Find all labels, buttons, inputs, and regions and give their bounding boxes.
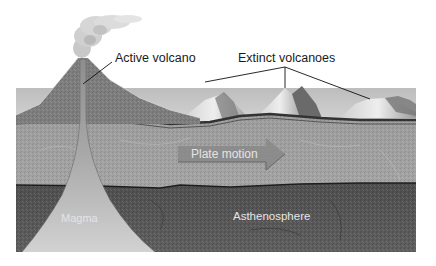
volcano-diagram: [0, 0, 436, 266]
extinct-leader-1: [205, 67, 285, 82]
label-asthenosphere: Asthenosphere: [233, 210, 310, 222]
label-extinct-volcanoes: Extinct volcanoes: [238, 51, 335, 65]
label-active-volcano: Active volcano: [115, 51, 196, 65]
label-plate-motion: Plate motion: [191, 147, 258, 161]
label-magma: Magma: [61, 212, 98, 224]
